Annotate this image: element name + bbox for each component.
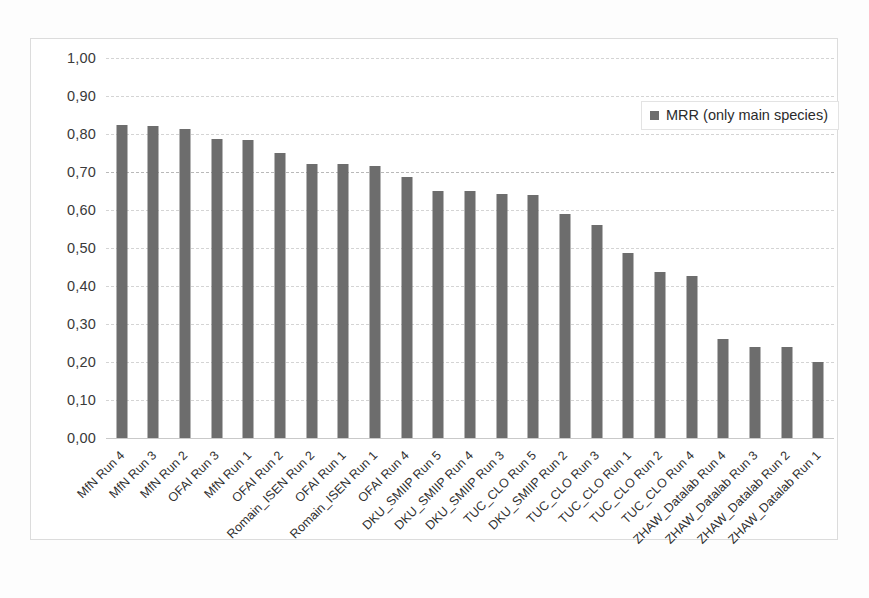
bar-slot	[549, 58, 581, 438]
bar[interactable]	[243, 140, 254, 438]
y-axis-tick-label: 0,40	[67, 278, 96, 294]
bar[interactable]	[686, 276, 697, 438]
bar-slot	[264, 58, 296, 438]
bar-slot	[138, 58, 170, 438]
bar[interactable]	[813, 362, 824, 438]
bar[interactable]	[211, 139, 222, 438]
bar-slot	[581, 58, 613, 438]
y-axis-tick-label: 1,00	[67, 50, 96, 66]
bar[interactable]	[180, 129, 191, 438]
series-color-swatch	[650, 111, 659, 120]
bar[interactable]	[275, 153, 286, 438]
bar-slot	[328, 58, 360, 438]
bar-slot	[612, 58, 644, 438]
bar-slot	[233, 58, 265, 438]
y-axis-tick-label: 0,80	[67, 126, 96, 142]
bar[interactable]	[654, 272, 665, 438]
chart-legend: MRR (only main species)	[641, 101, 839, 130]
bar[interactable]	[306, 164, 317, 438]
bar-slot	[359, 58, 391, 438]
bar[interactable]	[591, 225, 602, 438]
bar[interactable]	[749, 347, 760, 438]
bar-slot	[201, 58, 233, 438]
y-axis-tick-label: 0,10	[67, 392, 96, 408]
bar-slot	[454, 58, 486, 438]
bar-slot	[517, 58, 549, 438]
bar[interactable]	[496, 194, 507, 438]
bar-slot	[486, 58, 518, 438]
bar[interactable]	[464, 191, 475, 438]
bar-slot	[296, 58, 328, 438]
y-axis-tick-label: 0,60	[67, 202, 96, 218]
x-axis-tick-labels: MfN Run 4MfN Run 3MfN Run 2OFAI Run 3MfN…	[106, 438, 834, 578]
bar[interactable]	[370, 166, 381, 438]
y-axis-tick-label: 0,30	[67, 316, 96, 332]
bar[interactable]	[338, 164, 349, 438]
bar[interactable]	[116, 125, 127, 439]
bar-slot	[169, 58, 201, 438]
y-axis-tick-label: 0,00	[67, 430, 96, 446]
bar[interactable]	[718, 339, 729, 438]
bar[interactable]	[559, 214, 570, 438]
y-axis-tick-label: 0,50	[67, 240, 96, 256]
chart-frame: 0,000,100,200,300,400,500,600,700,800,90…	[30, 38, 838, 540]
y-axis-tick-label: 0,90	[67, 88, 96, 104]
bar[interactable]	[433, 191, 444, 438]
bar-slot	[391, 58, 423, 438]
bar-slot	[423, 58, 455, 438]
bar-slot	[106, 58, 138, 438]
bar[interactable]	[401, 177, 412, 438]
bar[interactable]	[781, 347, 792, 438]
legend-entry-label: MRR (only main species)	[666, 107, 828, 123]
bar[interactable]	[623, 253, 634, 438]
y-axis-tick-label: 0,70	[67, 164, 96, 180]
bar[interactable]	[528, 195, 539, 438]
y-axis-tick-label: 0,20	[67, 354, 96, 370]
bar[interactable]	[148, 126, 159, 438]
